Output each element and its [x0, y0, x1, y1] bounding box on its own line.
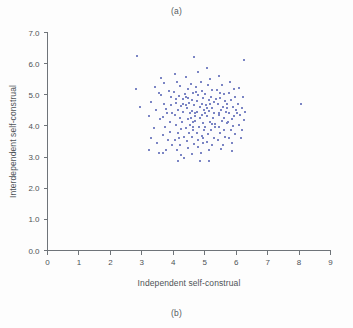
- data-point: [205, 104, 207, 106]
- data-point: [238, 124, 240, 126]
- data-point: [235, 109, 237, 111]
- data-point: [174, 114, 176, 116]
- data-point: [197, 71, 199, 73]
- data-point: [203, 129, 205, 131]
- data-point: [168, 90, 170, 92]
- data-point: [199, 117, 201, 119]
- data-point: [218, 126, 220, 128]
- data-point: [231, 142, 233, 144]
- data-point: [186, 107, 188, 109]
- data-point: [231, 118, 233, 120]
- data-point: [230, 129, 232, 131]
- data-point: [177, 132, 179, 134]
- data-point: [171, 144, 173, 146]
- data-point: [193, 56, 195, 58]
- data-point: [207, 133, 209, 135]
- data-point: [179, 85, 181, 87]
- data-point: [194, 112, 196, 114]
- data-point: [182, 98, 184, 100]
- data-point: [208, 149, 210, 151]
- data-point: [162, 152, 164, 154]
- data-point: [188, 102, 190, 104]
- data-point: [229, 81, 231, 83]
- data-point: [193, 104, 195, 106]
- data-point: [226, 103, 228, 105]
- x-tick-label: 3: [140, 258, 145, 267]
- data-point: [202, 137, 204, 139]
- data-point: [239, 114, 241, 116]
- data-point: [181, 121, 183, 123]
- data-point: [200, 152, 202, 154]
- y-tick-label: 2.0: [28, 184, 40, 193]
- data-point: [155, 109, 157, 111]
- data-point: [179, 117, 181, 119]
- data-point: [221, 120, 223, 122]
- data-point: [226, 107, 228, 109]
- y-tick-label: 5.0: [28, 91, 40, 100]
- data-point: [180, 128, 182, 130]
- data-point: [189, 112, 191, 114]
- data-point: [158, 152, 160, 154]
- data-point: [224, 100, 226, 102]
- data-point: [192, 126, 194, 128]
- y-tick-label: 0.0: [28, 247, 40, 256]
- data-point: [206, 67, 208, 69]
- data-point: [233, 88, 235, 90]
- data-point: [177, 160, 179, 162]
- data-point: [231, 150, 233, 152]
- data-point: [197, 146, 199, 148]
- x-tick-label: 5: [202, 258, 207, 267]
- x-tick-label: 4: [171, 258, 176, 267]
- data-point: [163, 103, 165, 105]
- data-point: [192, 121, 194, 123]
- data-point: [213, 137, 215, 139]
- data-point: [204, 126, 206, 128]
- data-point: [213, 101, 215, 103]
- data-point: [228, 112, 230, 114]
- data-point: [167, 139, 169, 141]
- data-point: [218, 112, 220, 114]
- data-point: [190, 117, 192, 119]
- data-point: [201, 114, 203, 116]
- data-point: [202, 97, 204, 99]
- data-point: [148, 149, 150, 151]
- data-point: [206, 107, 208, 109]
- data-point: [180, 154, 182, 156]
- data-point: [170, 104, 172, 106]
- scatter-plot: 01234567890.01.02.03.04.05.06.07.0Indepe…: [0, 0, 353, 300]
- data-point: [211, 89, 213, 91]
- data-point: [217, 103, 219, 105]
- data-point: [224, 136, 226, 138]
- data-point: [166, 112, 168, 114]
- data-point: [234, 133, 236, 135]
- data-point: [191, 99, 193, 101]
- data-point: [240, 137, 242, 139]
- data-point: [187, 97, 189, 99]
- data-point: [188, 132, 190, 134]
- data-point: [238, 87, 240, 89]
- data-point: [173, 91, 175, 93]
- data-point: [220, 148, 222, 150]
- data-point: [204, 112, 206, 114]
- data-point: [187, 118, 189, 120]
- data-point: [184, 93, 186, 95]
- data-point: [175, 102, 177, 104]
- data-point: [242, 96, 244, 98]
- data-point: [150, 137, 152, 139]
- data-point: [192, 92, 194, 94]
- data-points-group: [135, 55, 302, 162]
- data-point: [232, 106, 234, 108]
- data-point: [169, 131, 171, 133]
- data-point: [176, 149, 178, 151]
- axis-labels-group: 01234567890.01.02.03.04.05.06.07.0Indepe…: [8, 29, 333, 288]
- data-point: [241, 107, 243, 109]
- data-point: [169, 121, 171, 123]
- data-point: [194, 120, 196, 122]
- data-point: [148, 115, 150, 117]
- data-point: [160, 94, 162, 96]
- data-point: [208, 99, 210, 101]
- data-point: [175, 124, 177, 126]
- x-tick-label: 8: [297, 258, 302, 267]
- data-point: [198, 126, 200, 128]
- data-point: [196, 100, 198, 102]
